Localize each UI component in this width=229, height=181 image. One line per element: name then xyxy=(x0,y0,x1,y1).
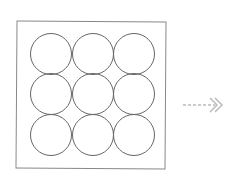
circle-grid-diagram xyxy=(0,0,229,181)
dashed-double-chevron-right-icon xyxy=(183,98,222,112)
circle-1-0 xyxy=(31,74,72,115)
circle-2-2 xyxy=(114,115,155,156)
circle-2-0 xyxy=(31,115,72,156)
circle-0-1 xyxy=(73,34,114,75)
circle-2-1 xyxy=(73,115,114,156)
circle-1-2 xyxy=(114,74,155,115)
circle-1-1 xyxy=(73,74,114,115)
circle-0-0 xyxy=(31,34,72,75)
circle-grid xyxy=(31,34,155,156)
circle-0-2 xyxy=(114,34,155,75)
square-frame xyxy=(16,21,166,169)
